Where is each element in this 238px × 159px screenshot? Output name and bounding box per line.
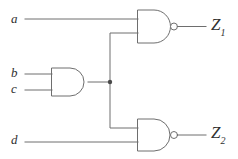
output-label-z1-subscript: 1 (220, 27, 225, 38)
output-label-z2: Z2 (211, 124, 225, 144)
wire-fanout-to-bottom-nand (110, 82, 138, 128)
input-label-b: b (11, 66, 18, 79)
and-gate-body (52, 68, 84, 96)
inversion-bubble-icon-top (171, 23, 178, 30)
nand-gate-top-body (138, 10, 171, 43)
junction-dot (108, 80, 112, 84)
input-label-a: a (11, 12, 18, 25)
inversion-bubble-icon-bottom (171, 132, 178, 139)
output-label-z1: Z1 (211, 16, 225, 36)
output-label-z2-subscript: 2 (220, 135, 225, 146)
nand-gate-bottom-body (138, 119, 170, 151)
circuit-schematic (0, 0, 238, 159)
input-label-c: c (11, 82, 17, 95)
input-label-d: d (11, 133, 18, 146)
wire-fanout-to-top-nand (110, 33, 138, 82)
circuit-diagram-canvas: a b c d Z1 Z2 (0, 0, 238, 159)
